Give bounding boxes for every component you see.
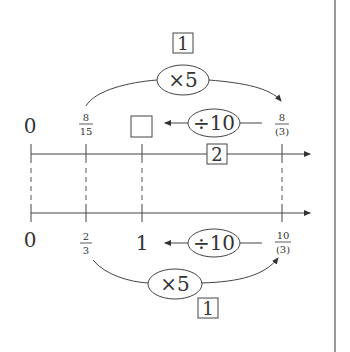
top-divide-label: ÷10 <box>193 111 235 135</box>
svg-text:(3): (3) <box>275 126 289 137</box>
svg-text:8: 8 <box>279 112 285 123</box>
svg-text:2: 2 <box>83 231 89 242</box>
double-number-line-diagram: 1 ×5 0 8 15 ÷10 8 (3) 2 } <box>0 0 350 352</box>
svg-text:10: 10 <box>277 230 290 241</box>
svg-text:8: 8 <box>83 112 89 123</box>
top-number-line: 2 <box>31 144 310 165</box>
top-label-8-3: 8 (3) <box>275 112 289 137</box>
dashed-connectors: } <box>31 168 282 202</box>
marker-label-1-top: 1 <box>177 33 188 54</box>
svg-text:3: 3 <box>83 245 89 256</box>
left-arrow-icon <box>164 120 171 126</box>
bottom-divide-group: ÷10 <box>164 229 262 257</box>
bottom-multiply-label: ×5 <box>160 272 189 296</box>
marker-label-1-bottom: 1 <box>202 298 213 319</box>
top-multiply-label: ×5 <box>168 68 197 92</box>
bottom-number-line <box>31 204 310 222</box>
top-arc-right-arrow <box>209 80 281 101</box>
bottom-arc-left <box>93 260 148 283</box>
top-label-8-15: 8 15 <box>79 112 93 137</box>
svg-text:(3): (3) <box>276 244 290 255</box>
bottom-arc-group: ×5 1 <box>93 258 278 319</box>
top-divide-group: ÷10 <box>164 109 262 137</box>
svg-text:15: 15 <box>80 126 93 137</box>
answer-blank-box[interactable] <box>131 116 152 137</box>
bottom-label-1: 1 <box>136 231 149 255</box>
bottom-label-10-3: 10 (3) <box>275 230 291 255</box>
bottom-label-0: 0 <box>24 228 37 252</box>
top-label-0: 0 <box>24 114 37 138</box>
top-arc-left <box>86 80 157 106</box>
top-arc-group: 1 ×5 <box>86 33 281 106</box>
left-arrow-icon <box>164 240 171 246</box>
marker-label-2: 2 <box>211 144 222 165</box>
bottom-divide-label: ÷10 <box>193 231 235 255</box>
bottom-label-2-3: 2 3 <box>80 231 92 256</box>
bottom-arc-right-arrow <box>201 258 278 283</box>
